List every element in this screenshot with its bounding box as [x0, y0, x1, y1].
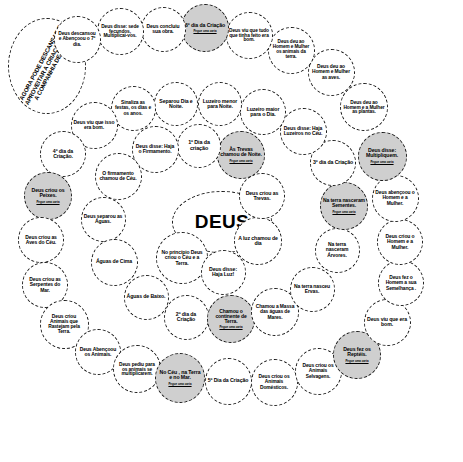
board-space-label: Deus pediu para os animais se multiplica… [116, 362, 158, 377]
board-space-label: Deus criou o Homem e a Mulher. [380, 234, 420, 250]
draw-card-instruction: Pegue uma carta [229, 160, 252, 163]
board-space-label: Deus criou os Animais Domésticos. [254, 374, 295, 389]
board-space-label: Deus descansou e Abençoou o 7º dia. [57, 31, 98, 46]
board-space-n27[interactable]: Deus criou as Aves do Céu. [18, 217, 64, 263]
board-space-label: No Céu , na Terra e no Mar. [158, 370, 202, 381]
board-space-label: Deus Abençoou os Animais. [78, 347, 118, 357]
board-space-n48[interactable]: Deus disse: sede fecundos, Multiplicai-v… [97, 8, 144, 55]
board-space-n03[interactable]: A luz chamou de dia [234, 217, 282, 265]
board-space-n05[interactable]: Às Trevas chamou de Noite.Pegue uma cart… [217, 131, 265, 179]
board-space-label: Separou Dia e Noite. [157, 99, 195, 110]
board-space-n17[interactable]: Na terra nasceram Sementes.Pegue uma car… [320, 182, 368, 230]
board-space-label: Deus deu ao Homem e a Mulher as plantas. [343, 100, 385, 115]
board-space-label: A luz chamou de dia [237, 236, 279, 247]
board-space-label: Chamou o continente de Terra. [210, 309, 252, 325]
board-space-label: Na terra nasceu Ervas. [293, 284, 332, 294]
board-space-label: Águas de Cima [94, 259, 135, 264]
board-space-label: Às Trevas chamou de Noite. [220, 147, 262, 158]
board-space-n09[interactable]: Deus separou as Águas. [81, 197, 126, 242]
board-space-n11[interactable]: Águas de Baixo. [124, 275, 169, 320]
draw-card-instruction: Pegue uma carta [193, 30, 216, 33]
board-space-label: Deus criou as Serpentes do Mar. [25, 277, 65, 293]
board-space-label: Águas de Baixo. [127, 294, 166, 299]
board-space-label: Deus abençoou o Homem e a Mulher. [375, 190, 416, 205]
board-space-n41[interactable]: Deus disse: Multipliquem.Pegue uma carta [358, 132, 407, 181]
board-space-n20[interactable]: Luzeiro maior para o Dia. [240, 89, 286, 135]
board-space-label: Deus viu que isso era bom. [74, 120, 115, 130]
board-space-n34[interactable]: Deus criou os Animais Domésticos. [251, 359, 298, 406]
board-space-n19[interactable]: Deus disse: Haja Luzeiros no Céu. [280, 108, 327, 155]
board-space-label: Deus viu que era bom. [367, 317, 408, 328]
board-space-label: 6º dia da Criação [184, 23, 226, 28]
board-space-n32[interactable]: No Céu , na Terra e no Mar.Pegue uma car… [155, 353, 205, 403]
board-space-n10[interactable]: Águas de Cima [91, 239, 138, 286]
board-space-n04[interactable]: Deus criou as Trevas. [239, 173, 285, 219]
draw-card-instruction: Pegue uma carta [168, 383, 191, 386]
board-space-n22[interactable]: Separou Dia e Noite. [154, 82, 198, 126]
board-space-label: Na terra nasceram Árvores. [318, 242, 357, 258]
board-space-n40[interactable]: Deus abençoou o Homem e a Mulher. [372, 175, 419, 222]
board-space-n45[interactable]: Deus viu que tudo que tinha feito era bo… [226, 12, 273, 59]
board-space-n21[interactable]: Luzeiro menor para Noite. [198, 82, 242, 126]
draw-card-instruction: Pegue uma carta [219, 326, 242, 329]
board-space-n42[interactable]: Deus deu ao Homem e a Mulher as plantas. [340, 83, 388, 131]
board-space-n12[interactable]: 2º dia da Criação [164, 295, 209, 340]
board-space-label: Deus separou as Águas. [84, 214, 123, 224]
board-space-n44[interactable]: Deus deu ao Homem e Mulher os animais da… [268, 27, 315, 74]
board-space-n47[interactable]: Deus concluiu sua obra. [141, 7, 186, 52]
board-space-n26[interactable]: Deus criou os Peixes.Pegue uma carta [24, 172, 72, 220]
board-space-label: Deus criou os Peixes. [27, 188, 69, 199]
board-space-n25[interactable]: 4º dia da Criação. [40, 131, 86, 177]
creation-spiral-board: AGORA PODE DESCANSAR E APROVEITAR A CRIA… [0, 0, 463, 462]
board-space-label: Deus disse: Haja Luzeiros no Céu. [283, 126, 324, 136]
board-space-label: Deus concluiu sua obra. [144, 24, 183, 34]
board-space-label: Luzeiro maior para o Dia. [243, 107, 283, 118]
board-space-label: 5º Dia da Criação [208, 378, 249, 383]
board-space-label: Sinaliza as festas, os dias e os anos. [114, 100, 153, 115]
board-space-n06[interactable]: 1º Dia da criação [177, 124, 221, 168]
board-space-label: Deus viu que tudo que tinha feito era bo… [229, 28, 270, 43]
board-space-label: 4º dia da Criação. [43, 149, 83, 160]
board-space-label: Chamou a Massa das águas de Mares. [254, 304, 296, 319]
board-space-label: 1º Dia da criação [180, 140, 218, 151]
board-space-label: 2º dia da Criação [167, 312, 206, 323]
board-space-label: Deus fez os Reptéis. [336, 347, 378, 358]
board-space-label: Deus deu ao Homem e Mulher as aves. [311, 64, 352, 79]
draw-card-instruction: Pegue uma carta [332, 211, 355, 214]
board-space-n38[interactable]: Deus fez o Homem a sua Semelhança . [378, 260, 424, 306]
board-space-n46[interactable]: 6º dia da CriaçãoPegue uma carta [181, 4, 229, 52]
board-space-label: Deus disse: Haja Luz! [204, 267, 243, 278]
board-space-label: Deus disse: Multipliquem. [361, 148, 404, 159]
board-space-label: Deus criou Animais que Rastejam pela Ter… [43, 314, 86, 334]
board-space-label: Deus disse: Haja o Firmamento. [135, 144, 176, 154]
board-space-label: Deus fez o Homem a sua Semelhança . [381, 275, 421, 290]
board-space-n16[interactable]: Na terra nasceram Árvores. [315, 228, 360, 273]
draw-card-instruction: Pegue uma carta [345, 360, 368, 363]
board-space-label: Deus criou as Aves do Céu. [21, 235, 61, 245]
board-space-n13[interactable]: Chamou o continente de Terra.Pegue uma c… [207, 295, 255, 343]
draw-card-instruction: Pegue uma carta [36, 201, 59, 204]
board-space-label: O firmamento chamou de Céu. [98, 171, 139, 181]
board-space-n01[interactable]: No princípio Deus criou o Céu e a Terra. [156, 232, 208, 284]
board-space-label: Na terra nasceram Sementes. [323, 198, 365, 208]
board-space-label: Deus criou os Animais Selvagens. [298, 363, 339, 378]
board-space-n43[interactable]: Deus deu ao Homem e Mulher as aves. [308, 49, 355, 96]
board-space-label: Luzeiro menor para Noite. [201, 99, 239, 110]
board-space-n39[interactable]: Deus criou o Homem e a Mulher. [377, 219, 423, 265]
board-space-n49[interactable]: Deus descansou e Abençoou o 7º dia. [54, 16, 101, 63]
board-space-n15[interactable]: Na terra nasceu Ervas. [290, 267, 335, 312]
board-space-n08[interactable]: O firmamento chamou de Céu. [95, 153, 142, 200]
draw-card-instruction: Pegue uma carta [370, 161, 393, 164]
board-space-label: Deus disse: sede fecundos, Multiplicai-v… [100, 24, 141, 39]
board-space-n31[interactable]: Deus pediu para os animais se multiplica… [113, 345, 161, 393]
board-space-label: 3º dia da Criação [313, 160, 353, 165]
board-space-label: No princípio Deus criou o Céu e a Terra. [159, 250, 205, 266]
board-space-n33[interactable]: 5º Dia da Criação [205, 358, 252, 405]
board-space-label: Deus criou as Trevas. [242, 191, 282, 202]
board-space-label: Deus deu ao Homem e Mulher os animais da… [271, 40, 312, 60]
